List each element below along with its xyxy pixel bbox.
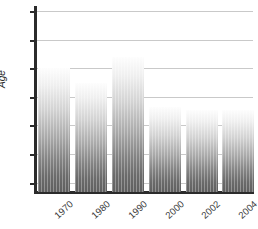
gridline-70 xyxy=(37,40,253,41)
x-tick-label-1980: 1980 xyxy=(89,198,112,220)
x-tick-label-2000: 2000 xyxy=(163,198,186,220)
gridline-72 xyxy=(37,11,253,12)
bar-chart: Age 72 70 68 66 64 62 60 1970 1980 1990 … xyxy=(0,0,258,229)
x-tick-label-2002: 2002 xyxy=(199,198,222,220)
bar-1990[interactable] xyxy=(112,57,144,192)
bar-2002[interactable] xyxy=(186,110,218,192)
plot-area xyxy=(37,8,253,192)
bar-1980[interactable] xyxy=(75,83,107,192)
bar-2000[interactable] xyxy=(149,107,181,192)
x-tick-label-1970: 1970 xyxy=(52,198,75,220)
x-tick-label-2004: 2004 xyxy=(236,198,258,220)
y-axis-title: Age xyxy=(0,70,7,88)
bar-2004[interactable] xyxy=(222,110,254,192)
x-tick-label-1990: 1990 xyxy=(126,198,149,220)
bar-1970[interactable] xyxy=(38,68,70,192)
